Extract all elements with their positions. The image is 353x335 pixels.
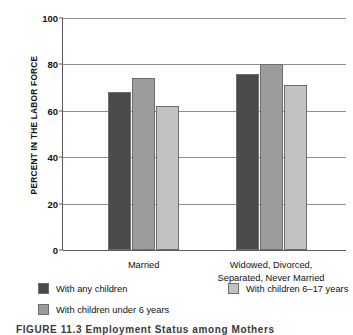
x-category-label-1-line1: Widowed, Divorced, xyxy=(181,259,353,272)
legend-label-0: With any children xyxy=(56,284,127,294)
y-axis-line xyxy=(62,18,63,250)
chart-plot-area: PERCENT IN THE LABOR FORCE 020406080100 … xyxy=(0,0,353,258)
bar-group-0-series-1 xyxy=(132,78,155,250)
y-tick-label-100: 100 xyxy=(42,13,58,24)
y-axis-title: PERCENT IN THE LABOR FORCE xyxy=(29,30,39,220)
chart-canvas: 020406080100 xyxy=(63,18,346,250)
y-tick-mark-40 xyxy=(59,157,63,158)
figure-caption: FIGURE 11.3 Employment Status among Moth… xyxy=(16,324,346,335)
y-tick-mark-80 xyxy=(59,64,63,65)
y-tick-mark-20 xyxy=(59,203,63,204)
bar-group-0-series-0 xyxy=(108,92,131,250)
bar-group-1-series-2 xyxy=(284,85,307,250)
legend-swatch-icon-2 xyxy=(228,283,239,294)
y-tick-label-60: 60 xyxy=(47,105,58,116)
legend-item-1[interactable]: With children under 6 years xyxy=(38,304,169,315)
chart-legend: With any childrenWith children under 6 y… xyxy=(38,283,338,323)
gridline-0 xyxy=(63,250,346,251)
y-tick-label-40: 40 xyxy=(47,152,58,163)
legend-label-1: With children under 6 years xyxy=(56,305,169,315)
y-tick-mark-0 xyxy=(59,250,63,251)
bar-group-1-series-0 xyxy=(236,74,259,250)
legend-swatch-icon-1 xyxy=(38,304,49,315)
gridline-80 xyxy=(63,64,346,65)
y-tick-mark-60 xyxy=(59,110,63,111)
gridline-100 xyxy=(63,18,346,19)
y-tick-mark-100 xyxy=(59,18,63,19)
legend-item-0[interactable]: With any children xyxy=(38,283,127,294)
x-category-label-1: Widowed, Divorced,Separated, Never Marri… xyxy=(181,259,353,284)
y-tick-label-0: 0 xyxy=(53,245,58,256)
y-tick-label-80: 80 xyxy=(47,59,58,70)
bar-group-0-series-2 xyxy=(156,106,179,250)
bar-group-1-series-1 xyxy=(260,64,283,250)
y-tick-label-20: 20 xyxy=(47,198,58,209)
legend-swatch-icon-0 xyxy=(38,283,49,294)
legend-label-2: With children 6–17 years xyxy=(246,284,348,294)
legend-item-2[interactable]: With children 6–17 years xyxy=(228,283,348,294)
